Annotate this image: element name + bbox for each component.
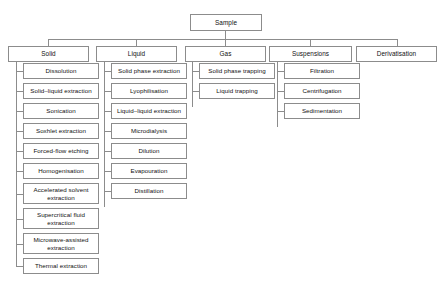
node-suspensions: Suspensions <box>269 46 352 62</box>
connector-solid-tick-10 <box>16 266 23 267</box>
node-liquid-child-6: Distillation <box>111 183 187 199</box>
node-solid-child-3: Soxhlet extraction <box>23 123 99 139</box>
connector-suspensions-tick-1 <box>277 71 284 72</box>
node-gas: Gas <box>185 46 266 62</box>
node-solid-child-1-label: Solid–liquid extraction <box>30 87 91 95</box>
connector-liquid-tick-4 <box>104 131 111 132</box>
connector-liquid-tick-2 <box>104 91 111 92</box>
node-liquid-child-2-label: Liquid–liquid extraction <box>117 107 181 115</box>
node-solid-child-2: Sonication <box>23 103 99 119</box>
node-solid-child-7: Supercritical fluid extraction <box>23 208 99 229</box>
connector-solid-tick-3 <box>16 111 23 112</box>
node-solid-label: Solid <box>41 50 55 58</box>
node-liquid-child-6-label: Distillation <box>135 187 164 195</box>
connector-suspensions-tick-3 <box>277 111 284 112</box>
connector-solid-tick-8 <box>16 219 23 220</box>
connector-solid-tick-2 <box>16 91 23 92</box>
node-solid-child-1: Solid–liquid extraction <box>23 83 99 99</box>
node-liquid-child-4: Dilution <box>111 143 187 159</box>
connector-liquid-tick-7 <box>104 191 111 192</box>
node-suspensions-child-0: Filtration <box>284 63 360 79</box>
node-solid-child-7-label: Supercritical fluid extraction <box>26 211 96 226</box>
node-derivatisation: Derivatisation <box>356 46 437 62</box>
node-liquid-child-3: Microdialysis <box>111 123 187 139</box>
node-derivatisation-label: Derivatisation <box>377 50 416 58</box>
connector-root-bus <box>48 39 397 40</box>
node-solid-child-2-label: Sonication <box>46 107 75 115</box>
connector-solid-tick-5 <box>16 151 23 152</box>
node-gas-child-0: Solid phase trapping <box>199 63 275 79</box>
node-liquid-child-1: Lyophilisation <box>111 83 187 99</box>
node-suspensions-child-1: Centrifugation <box>284 83 360 99</box>
node-liquid-child-4-label: Dilution <box>138 147 159 155</box>
node-liquid-child-3-label: Microdialysis <box>131 127 167 135</box>
connector-bus-to-solid <box>48 39 49 46</box>
connector-solid-tick-7 <box>16 194 23 195</box>
connector-solid-tick-4 <box>16 131 23 132</box>
connector-liquid-tick-5 <box>104 151 111 152</box>
connector-gas-tick-1 <box>192 71 199 72</box>
connector-root-stem <box>225 31 226 39</box>
connector-bus-to-liquid <box>136 39 137 46</box>
node-solid-child-0-label: Dissolution <box>46 67 77 75</box>
flowchart-canvas: Sample Solid Liquid Gas Suspensions Deri… <box>0 0 443 287</box>
node-liquid-child-2: Liquid–liquid extraction <box>111 103 187 119</box>
node-liquid-label: Liquid <box>128 50 145 58</box>
connector-suspensions-tick-2 <box>277 91 284 92</box>
node-gas-child-1: Liquid trapping <box>199 83 275 99</box>
node-solid-child-9: Thermal extraction <box>23 258 99 274</box>
connector-gas-tick-2 <box>192 91 199 92</box>
connector-solid-tick-9 <box>16 244 23 245</box>
node-liquid-child-1-label: Lyophilisation <box>130 87 168 95</box>
node-sample: Sample <box>190 14 262 31</box>
connector-liquid-trunk <box>104 62 105 207</box>
node-suspensions-child-2-label: Sedimentation <box>302 107 342 115</box>
node-suspensions-child-0-label: Filtration <box>310 67 334 75</box>
node-suspensions-child-2: Sedimentation <box>284 103 360 119</box>
node-solid-child-8-label: Microwave-assisted extraction <box>26 236 96 251</box>
node-liquid-child-0: Solid phase extraction <box>111 63 187 79</box>
node-solid-child-3-label: Soxhlet extraction <box>36 127 86 135</box>
node-liquid-child-5-label: Evapouration <box>130 167 167 175</box>
node-solid-child-0: Dissolution <box>23 63 99 79</box>
node-gas-label: Gas <box>220 50 232 58</box>
node-solid-child-6: Accelerated solvent extraction <box>23 183 99 204</box>
connector-solid-tick-1 <box>16 71 23 72</box>
node-suspensions-child-1-label: Centrifugation <box>302 87 341 95</box>
node-solid-child-4: Forced-flow etching <box>23 143 99 159</box>
connector-gas-trunk <box>192 62 193 107</box>
connector-liquid-tick-1 <box>104 71 111 72</box>
connector-liquid-tick-6 <box>104 171 111 172</box>
node-gas-child-1-label: Liquid trapping <box>216 87 257 95</box>
connector-bus-to-suspensions <box>310 39 311 46</box>
node-solid: Solid <box>8 46 89 62</box>
node-solid-child-5-label: Homogenisation <box>38 167 83 175</box>
node-solid-child-4-label: Forced-flow etching <box>34 147 89 155</box>
connector-bus-to-gas <box>225 39 226 46</box>
node-sample-label: Sample <box>215 19 237 27</box>
node-solid-child-8: Microwave-assisted extraction <box>23 233 99 254</box>
node-suspensions-label: Suspensions <box>292 50 329 58</box>
connector-solid-trunk <box>16 62 17 266</box>
connector-bus-to-derivatisation <box>397 39 398 46</box>
node-solid-child-9-label: Thermal extraction <box>35 262 87 270</box>
node-liquid-child-0-label: Solid phase extraction <box>118 67 180 75</box>
node-solid-child-5: Homogenisation <box>23 163 99 179</box>
connector-liquid-tick-3 <box>104 111 111 112</box>
node-liquid: Liquid <box>96 46 177 62</box>
node-liquid-child-5: Evapouration <box>111 163 187 179</box>
node-gas-child-0-label: Solid phase trapping <box>208 67 265 75</box>
node-solid-child-6-label: Accelerated solvent extraction <box>26 186 96 201</box>
connector-solid-tick-6 <box>16 171 23 172</box>
